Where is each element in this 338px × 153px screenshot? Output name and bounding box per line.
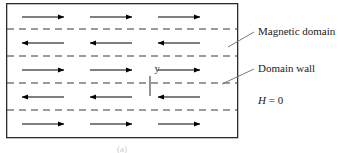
figure-canvas: y Magnetic domain Domain wall H = 0 (a): [0, 0, 338, 153]
magnetic-domain-diagram: y Magnetic domain Domain wall H = 0 (a): [0, 0, 338, 153]
domain-wall-label: Domain wall: [258, 62, 315, 74]
y-axis-label: y: [154, 63, 160, 74]
figure-caption: (a): [117, 144, 127, 153]
magnetic-domain-label: Magnetic domain: [258, 25, 336, 37]
specimen-frame: [7, 4, 238, 138]
applied-field-label: H = 0: [257, 94, 284, 106]
field-relation: = 0: [266, 94, 284, 106]
